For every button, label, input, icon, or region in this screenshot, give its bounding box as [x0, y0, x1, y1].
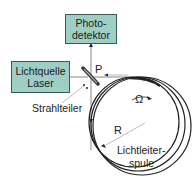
fiber-optic-gyroscope-diagram: Photo- detektor Lichtquelle Laser Strahl… [0, 0, 192, 181]
photodetector-label-line1: Photo- [76, 17, 107, 29]
power-label: P [95, 64, 102, 75]
laser-label-line2: Laser [27, 77, 53, 89]
laser-label-line1: Lichtquelle [15, 65, 65, 77]
rotation-label: Ω [135, 94, 143, 105]
beam-splitter-label: Strahlteiler [32, 103, 82, 114]
coil-label-line1: Lichtleiter- [117, 145, 165, 156]
radius-label: R [114, 125, 122, 136]
laser-source-box: Lichtquelle Laser [11, 61, 70, 93]
photodetector-label-line2: detektor [72, 29, 110, 41]
photodetector-box: Photo- detektor [65, 14, 117, 44]
coil-label-line2: spule [129, 158, 154, 169]
